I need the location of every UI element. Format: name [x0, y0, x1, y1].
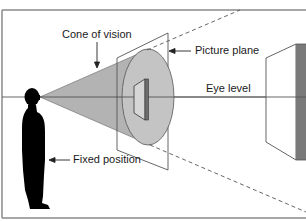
cone-of-vision-label: Cone of vision: [62, 29, 132, 40]
projected-object: [134, 79, 149, 120]
perspective-diagram: [0, 0, 306, 221]
eye-level-label: Eye level: [206, 83, 251, 94]
picture-plane-label: Picture plane: [195, 45, 259, 56]
human-figure-icon: [22, 88, 50, 209]
fixed-position-label: Fixed position: [73, 154, 141, 165]
real-object: [266, 44, 306, 160]
